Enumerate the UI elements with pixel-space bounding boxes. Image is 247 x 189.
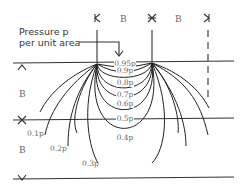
label-0.2p: 0.2p xyxy=(50,144,67,153)
pressure-label-line2: per unit area xyxy=(19,37,80,48)
left-marker-b1: B xyxy=(19,89,26,99)
caret-up-marker-icon xyxy=(18,65,26,70)
depth-line-2B xyxy=(13,177,234,179)
label-0.8p: 0.8p xyxy=(117,78,134,87)
top-marker-b1: B xyxy=(120,14,127,24)
label-0.7p: 0.7p xyxy=(117,90,134,99)
k-marker-right-icon xyxy=(204,14,209,22)
label-0.9p: 0.9p xyxy=(117,66,134,75)
label-0.6p: 0.6p xyxy=(117,99,134,108)
isobar-labels: 0.95p 0.9p 0.8p 0.7p 0.6p 0.5p 0.4p 0.3p… xyxy=(27,59,136,168)
label-0.5p: 0.5p xyxy=(117,114,134,123)
left-dimension-markers: B B xyxy=(18,65,26,180)
pressure-label-line1: Pressure p xyxy=(19,26,69,37)
k-marker-icon xyxy=(95,14,100,22)
label-0.4p: 0.4p xyxy=(117,133,134,142)
left-marker-b2: B xyxy=(19,145,26,155)
label-0.1p: 0.1p xyxy=(27,129,44,138)
pressure-leader-line xyxy=(79,42,119,55)
top-dimension-markers: B B xyxy=(95,14,209,24)
isobar-outer-right xyxy=(152,63,209,108)
x-marker-icon xyxy=(148,14,156,22)
pressure-bulb-diagram: B B B B Pressure p per unit area xyxy=(0,0,247,189)
label-0.3p: 0.3p xyxy=(82,159,99,168)
top-marker-b2: B xyxy=(175,14,182,24)
